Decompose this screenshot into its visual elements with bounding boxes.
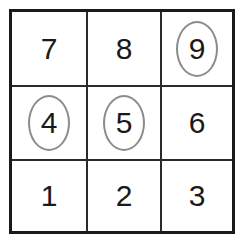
grid-cell-2: 2 — [88, 161, 162, 231]
grid-cell-7: 7 — [12, 12, 88, 87]
grid-cell-4: 4 — [12, 87, 88, 161]
grid-cell-5: 5 — [88, 87, 162, 161]
grid-cell-8: 8 — [88, 12, 162, 87]
cell-number: 4 — [41, 106, 58, 140]
grid-cell-3: 3 — [162, 161, 232, 231]
grid-cell-1: 1 — [12, 161, 88, 231]
grid-cell-6: 6 — [162, 87, 232, 161]
cell-number: 9 — [189, 32, 206, 66]
cell-number: 7 — [41, 32, 58, 66]
cell-number: 8 — [116, 32, 133, 66]
grid-cell-9: 9 — [162, 12, 232, 87]
cell-number: 3 — [189, 179, 206, 213]
cell-number: 1 — [41, 179, 58, 213]
cell-number: 2 — [116, 179, 133, 213]
cell-number: 5 — [116, 106, 133, 140]
number-grid: 7 8 9 4 5 6 1 2 3 — [9, 9, 235, 234]
cell-number: 6 — [189, 106, 206, 140]
